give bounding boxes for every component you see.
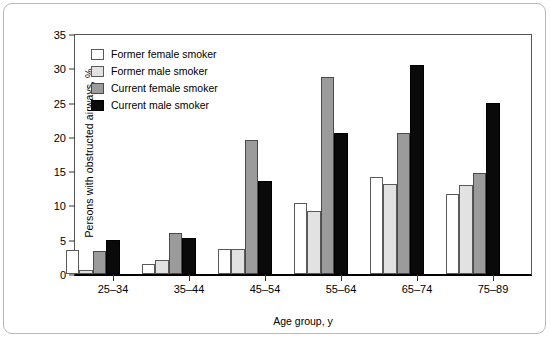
bar [245,140,259,274]
bar [231,249,245,274]
legend-label: Former male smoker [111,66,208,77]
legend-item: Current male smoker [91,98,218,113]
legend: Former female smokerFormer male smokerCu… [91,47,218,115]
legend-label: Former female smoker [111,49,217,60]
y-axis-tick-mark [69,240,75,241]
x-axis-tick-mark [493,274,494,281]
bar [486,103,500,274]
y-axis-tick-mark [69,103,75,104]
x-axis-tick-mark [417,274,418,281]
legend-swatch-icon [91,100,104,111]
x-axis-tick-mark [113,274,114,281]
bar [182,238,196,274]
x-axis-tick-mark [265,274,266,281]
bar [383,184,397,275]
x-axis-tick-mark [341,274,342,281]
bar [169,233,183,274]
y-axis-tick-mark [69,172,75,173]
bar [334,133,348,274]
bar [294,203,308,274]
bar [370,177,384,274]
bar [258,181,272,274]
legend-swatch-icon [91,83,104,94]
x-axis-tick-label: 55–64 [301,283,381,295]
y-axis-tick-mark [69,275,75,276]
bar [93,251,107,274]
bar [446,194,460,274]
legend-item: Former female smoker [91,47,218,62]
plot-area: Persons with obstructed airways, % 05101… [74,34,532,276]
y-axis-tick-mark [69,137,75,138]
bar [473,173,487,274]
y-axis-tick-mark [69,35,75,36]
bar [307,211,321,274]
bar [155,260,169,274]
bar [321,77,335,274]
x-axis-tick-label: 45–54 [225,283,305,295]
x-axis-tick-label: 35–44 [149,283,229,295]
bar [142,264,156,274]
figure-frame: Age group, y Persons with obstructed air… [3,3,546,334]
y-axis-tick-mark [69,206,75,207]
bar [218,249,232,274]
legend-item: Current female smoker [91,81,218,96]
y-axis-tick-mark [69,69,75,70]
x-axis-tick-label: 25–34 [73,283,153,295]
legend-label: Current male smoker [111,100,209,111]
x-axis-tick-label: 65–74 [377,283,457,295]
legend-label: Current female smoker [111,83,218,94]
legend-swatch-icon [91,66,104,77]
legend-item: Former male smoker [91,64,218,79]
bar [459,185,473,274]
x-axis-tick-label: 75–89 [453,283,533,295]
x-axis-title: Age group, y [74,315,532,327]
bar [397,133,411,274]
x-axis-tick-mark [189,274,190,281]
bar [79,270,93,274]
legend-swatch-icon [91,49,104,60]
bar [66,250,80,274]
bar [106,240,120,274]
bar [410,65,424,274]
